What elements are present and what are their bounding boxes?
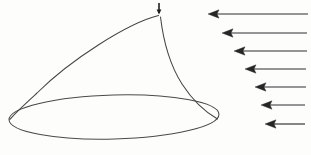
cone-right-edge — [161, 17, 218, 119]
figure-canvas — [0, 0, 311, 155]
flow-arrow-2 — [222, 29, 307, 37]
cone-shape — [8, 3, 219, 142]
cone-left-edge — [10, 16, 159, 120]
cone-base-ellipse — [8, 92, 219, 141]
flow-arrow-5 — [255, 83, 306, 91]
flow-arrow-7 — [265, 120, 305, 128]
flow-arrow-3 — [234, 47, 307, 55]
figure-svg — [0, 0, 311, 155]
apex-tick-icon — [157, 3, 162, 15]
flow-arrow-1 — [208, 10, 308, 18]
flow-arrow-group — [208, 10, 308, 128]
flow-arrow-6 — [261, 101, 305, 109]
flow-arrow-4 — [245, 65, 306, 73]
